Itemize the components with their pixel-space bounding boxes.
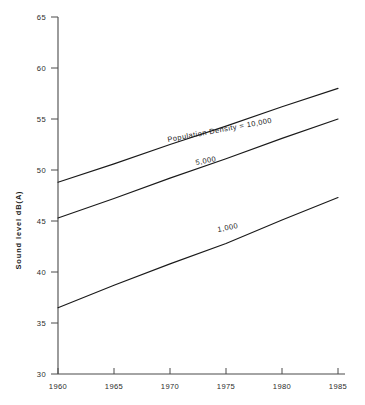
axes-group <box>58 17 345 374</box>
x-tick-group <box>58 368 338 374</box>
y-tick-label-50: 50 <box>37 166 46 175</box>
y-axis-title: Sound level dB(A) <box>14 191 23 270</box>
x-tick-label-1970: 1970 <box>161 382 179 391</box>
sound-level-line-chart: 65 60 55 50 45 40 35 30 1960 1965 1970 1… <box>0 0 365 405</box>
y-tick-label-40: 40 <box>37 268 46 277</box>
x-tick-label-1980: 1980 <box>273 382 291 391</box>
series-label-10000: Population Density = 10,000 <box>167 116 273 144</box>
y-tick-label-35: 35 <box>37 319 46 328</box>
y-tick-label-65: 65 <box>37 13 46 22</box>
series-label-5000: 5,000 <box>195 154 217 167</box>
series-group <box>58 88 338 307</box>
x-tick-label-1975: 1975 <box>217 382 235 391</box>
x-tick-labels: 1960 1965 1970 1975 1980 1985 <box>49 382 347 391</box>
series-label-1000: 1,000 <box>217 221 239 234</box>
y-tick-group <box>51 17 58 374</box>
y-tick-label-60: 60 <box>37 64 46 73</box>
chart-svg: 65 60 55 50 45 40 35 30 1960 1965 1970 1… <box>0 0 365 405</box>
x-tick-label-1985: 1985 <box>329 382 347 391</box>
y-tick-label-45: 45 <box>37 217 46 226</box>
x-tick-label-1965: 1965 <box>105 382 123 391</box>
y-tick-label-55: 55 <box>37 115 46 124</box>
y-tick-label-30: 30 <box>37 370 46 379</box>
x-tick-label-1960: 1960 <box>49 382 67 391</box>
series-labels: Population Density = 10,000 5,000 1,000 <box>167 116 273 234</box>
y-tick-labels: 65 60 55 50 45 40 35 30 <box>37 13 46 379</box>
series-line-1000 <box>58 198 338 308</box>
